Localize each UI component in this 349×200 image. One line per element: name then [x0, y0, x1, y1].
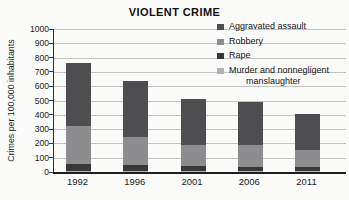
- bar-segment-1992-robbery: [66, 126, 91, 164]
- bar-segment-2011-aggravated-assault: [295, 114, 320, 150]
- legend-item-aggravated-assault: Aggravated assault: [217, 21, 349, 33]
- x-tick-label-2001: 2001: [170, 176, 214, 187]
- bar-segment-1996-murder-and-nonnegligent-manslaughter: [123, 171, 148, 172]
- y-tick-label-1000: 1000: [10, 24, 49, 34]
- x-tick-label-1996: 1996: [113, 176, 157, 187]
- y-tick-label-500: 500: [10, 96, 49, 106]
- y-tick-label-400: 400: [10, 110, 49, 120]
- chart-title: VIOLENT CRIME: [0, 6, 349, 18]
- bar-segment-2001-rape: [181, 166, 206, 171]
- x-tick-label-2006: 2006: [227, 176, 271, 187]
- legend-item-rape: Rape: [217, 50, 349, 62]
- y-axis-tick-800: [49, 57, 53, 58]
- y-tick-label-700: 700: [10, 67, 49, 77]
- bar-segment-2001-robbery: [181, 145, 206, 166]
- bar-segment-2011-robbery: [295, 150, 320, 167]
- y-tick-label-100: 100: [10, 153, 49, 163]
- y-tick-label-800: 800: [10, 53, 49, 63]
- bar-segment-1996-rape: [123, 165, 148, 170]
- y-tick-label-200: 200: [10, 138, 49, 148]
- y-axis-tick-200: [49, 143, 53, 144]
- bar-segment-2001-aggravated-assault: [181, 99, 206, 145]
- legend-item-murder-and-nonnegligent-manslaughter: Murder and nonnegligentmanslaughter: [217, 65, 349, 88]
- bar-segment-2006-aggravated-assault: [238, 102, 263, 145]
- x-tick-label-2011: 2011: [285, 176, 329, 187]
- bar-segment-1992-aggravated-assault: [66, 63, 91, 126]
- bar-segment-1996-aggravated-assault: [123, 81, 148, 137]
- legend-swatch-rape: [217, 53, 224, 59]
- legend-item-robbery: Robbery: [217, 36, 349, 48]
- legend-swatch-aggravated-assault: [217, 24, 224, 30]
- y-axis-tick-900: [49, 43, 53, 44]
- bar-segment-2011-murder-and-nonnegligent-manslaughter: [295, 171, 320, 172]
- bar-segment-2006-robbery: [238, 145, 263, 166]
- legend-label-murder-and-nonnegligent-manslaughter: Murder and nonnegligentmanslaughter: [229, 65, 329, 88]
- legend: Aggravated assaultRobberyRapeMurder and …: [217, 21, 349, 91]
- bar-segment-1992-rape: [66, 164, 91, 170]
- bar-segment-1996-robbery: [123, 137, 148, 166]
- bar-segment-2011-rape: [295, 167, 320, 171]
- y-axis-tick-400: [49, 114, 53, 115]
- violent-crime-chart: VIOLENT CRIME Crimes per 100,000 inhabit…: [0, 0, 349, 200]
- legend-label-rape: Rape: [229, 50, 251, 62]
- legend-swatch-murder-and-nonnegligent-manslaughter: [217, 68, 224, 74]
- y-axis-tick-600: [49, 86, 53, 87]
- legend-swatch-robbery: [217, 39, 224, 45]
- y-tick-label-900: 900: [10, 38, 49, 48]
- bar-segment-1992-murder-and-nonnegligent-manslaughter: [66, 171, 91, 172]
- y-tick-label-300: 300: [10, 124, 49, 134]
- bar-segment-2006-murder-and-nonnegligent-manslaughter: [238, 171, 263, 172]
- y-axis-tick-700: [49, 71, 53, 72]
- legend-label-aggravated-assault: Aggravated assault: [229, 21, 306, 33]
- y-axis-tick-300: [49, 129, 53, 130]
- bar-segment-2006-rape: [238, 167, 263, 172]
- y-axis-tick-0: [49, 172, 53, 173]
- y-axis-tick-500: [49, 100, 53, 101]
- y-axis-tick-100: [49, 157, 53, 158]
- legend-label-robbery: Robbery: [229, 36, 263, 48]
- y-tick-label-0: 0: [10, 167, 49, 177]
- y-axis-tick-1000: [49, 29, 53, 30]
- x-tick-label-1992: 1992: [56, 176, 100, 187]
- bar-segment-2001-murder-and-nonnegligent-manslaughter: [181, 171, 206, 172]
- y-tick-label-600: 600: [10, 81, 49, 91]
